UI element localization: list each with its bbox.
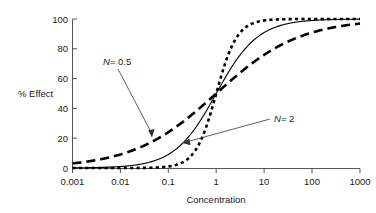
y-tick-label: 60: [57, 73, 68, 84]
y-tick-label: 0: [63, 163, 68, 174]
y-tick-label: 100: [52, 14, 68, 25]
annotation-n-0point5-label: N= 0.5: [103, 56, 131, 67]
annotation-n-0point5: N= 0.5: [103, 56, 155, 138]
x-tick-label: 100: [304, 176, 320, 187]
x-tick-label: 1000: [349, 176, 370, 187]
y-tick-label: 20: [57, 133, 68, 144]
annotation-n-2: N= 2: [183, 113, 295, 145]
x-tick-label: 10: [259, 176, 270, 187]
y-tick-labels: 100 80 60 40 20 0: [52, 14, 68, 174]
x-tick-label: 1: [214, 176, 219, 187]
x-axis-ticks: [73, 169, 361, 174]
x-tick-labels: 0.001 0.01 0.1 1 10 100 1000: [61, 176, 371, 187]
annotation-n-2-label: N= 2: [274, 113, 294, 124]
chart-canvas: 100 80 60 40 20 0 0.001 0.01 0.1 1 10 10…: [0, 0, 376, 213]
x-axis-title: Concentration: [186, 194, 245, 205]
y-axis-ticks: [73, 19, 78, 168]
y-axis-title: % Effect: [18, 88, 54, 99]
annotation-n-0point5-arrowhead: [148, 129, 155, 138]
y-tick-label: 40: [57, 103, 68, 114]
y-tick-label: 80: [57, 43, 68, 54]
x-tick-label: 0.1: [162, 176, 175, 187]
annotation-n-2-value: = 2: [281, 113, 294, 124]
annotation-n-0point5-leader: [118, 69, 152, 134]
x-tick-label: 0.01: [111, 176, 130, 187]
x-tick-label: 0.001: [61, 176, 85, 187]
curve-n-1: [73, 19, 361, 168]
dose-response-chart: 100 80 60 40 20 0 0.001 0.01 0.1 1 10 10…: [0, 0, 376, 213]
annotation-n-0point5-value: = 0.5: [110, 56, 131, 67]
